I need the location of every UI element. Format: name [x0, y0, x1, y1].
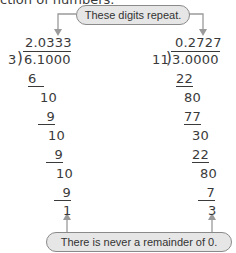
right-step-2: 80	[184, 91, 201, 105]
left-step-1: 6	[28, 72, 44, 87]
callout-no-zero-remainder: There is never a remainder of 0.	[46, 232, 232, 252]
right-remainder: 3	[208, 204, 216, 218]
right-step-1: 22	[176, 72, 193, 87]
right-quotient: 0.2727	[175, 36, 222, 50]
left-dividend: 6.1000	[24, 53, 71, 67]
left-step-5: 9	[46, 148, 63, 163]
left-step-4: 10	[48, 129, 65, 143]
left-step-7: 9	[54, 186, 71, 201]
callout-digits-repeat: These digits repeat.	[76, 5, 190, 25]
left-step-6: 10	[56, 167, 73, 181]
right-step-3: 77	[184, 110, 201, 125]
right-step-4: 30	[192, 129, 209, 143]
right-step-7: 7	[198, 186, 215, 201]
right-dividend: 3.0000	[172, 53, 219, 67]
left-step-2: 10	[40, 91, 57, 105]
left-division-bracket: )	[17, 51, 23, 66]
left-remainder: 1	[63, 204, 71, 218]
right-step-6: 80	[200, 167, 217, 181]
left-divisor: 3	[8, 53, 16, 67]
right-step-5: 22	[192, 148, 209, 163]
right-division-bracket: )	[166, 51, 172, 66]
left-quotient: 2.0333	[25, 36, 72, 50]
left-step-3: 9	[38, 110, 55, 125]
